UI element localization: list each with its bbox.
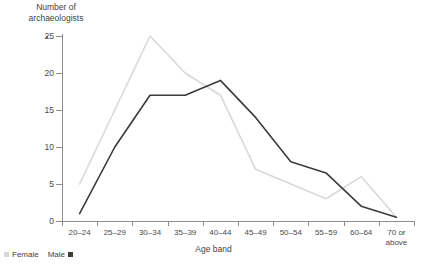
legend-label-female: Female [12,250,39,259]
series-line-female [80,36,397,217]
legend-item-female: Female [4,250,39,259]
legend-label-male: Male [48,250,65,259]
legend-item-male: Male [48,250,73,259]
legend-swatch-male-icon [68,252,73,257]
line-chart: Number of archaeologists 0510152025 20–2… [0,0,427,265]
series-line-male [80,80,397,217]
legend-swatch-female-icon [4,252,9,257]
chart-legend: Female Male [4,250,73,259]
series-layer [0,0,427,265]
